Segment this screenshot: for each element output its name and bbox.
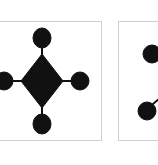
node-bottom-circle [33,114,51,134]
diamond-shape [21,54,63,108]
figure-drawing [0,0,158,165]
node-lower-circle [138,102,156,120]
node-right-circle [71,72,89,90]
node-left-circle [0,72,13,90]
diamond-node-group [0,28,89,134]
right-panel-nodes [138,45,158,120]
puzzle-figure [0,0,158,165]
node-upper-circle [143,45,158,63]
node-top-circle [33,28,51,48]
